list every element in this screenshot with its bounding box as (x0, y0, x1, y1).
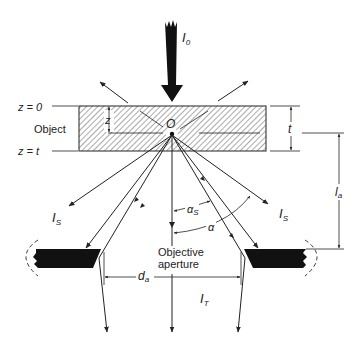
ray-arrowhead (169, 222, 175, 228)
aperture-blade-left (33, 249, 101, 268)
alpha-label: α (208, 221, 215, 233)
scattered-rays (69, 135, 268, 332)
z-t-label: z = t (17, 145, 40, 157)
transmitted-intensity-label: IT (200, 291, 210, 308)
scattered-intensity-left-label: IS (52, 210, 62, 227)
aperture-blade-right (244, 249, 307, 268)
depth-z-label: z (104, 114, 111, 126)
origin-label: O (166, 117, 175, 131)
passing-ray-left (99, 135, 172, 332)
aperture-label-line1: Objective (158, 246, 204, 258)
scattered-intensity-right-label: IS (279, 206, 289, 223)
blocked-ray-left (86, 135, 172, 248)
ray-arrowhead (229, 233, 234, 238)
ray-arrowhead (140, 203, 145, 208)
backscatter-left-arrow (100, 82, 128, 103)
z-zero-label: z = 0 (17, 101, 43, 113)
backscatter-right-arrow (218, 81, 248, 101)
incident-intensity-label: I0 (182, 30, 191, 47)
object-label: Object (34, 123, 66, 135)
aperture-break-right (305, 240, 317, 276)
incident-beam-arrow (161, 20, 183, 102)
scattering-diagram: I0 z = 0 z = t Object z O t la (0, 0, 360, 349)
aperture-label-line2: aperture (158, 258, 199, 270)
